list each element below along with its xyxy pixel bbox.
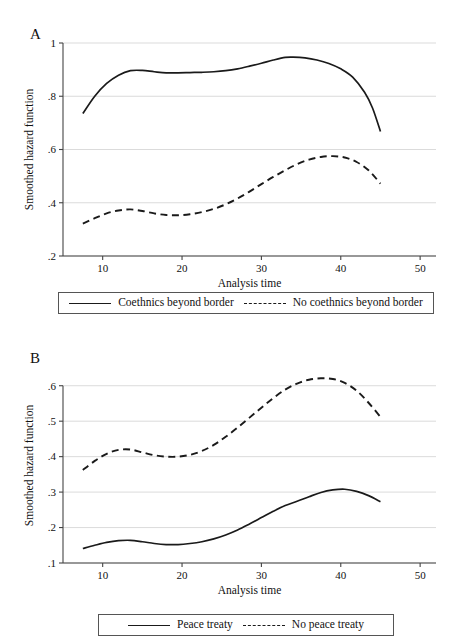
legend-entry-peace-treaty: Peace treaty <box>128 619 233 631</box>
x-tick-label: 10 <box>97 262 109 274</box>
y-tick-label: 1 <box>51 37 57 49</box>
legend-label-no-peace-treaty: No peace treaty <box>292 619 364 631</box>
x-tick-label: 30 <box>256 569 268 581</box>
y-tick-label: .4 <box>48 450 57 462</box>
y-tick-label: .1 <box>48 557 56 569</box>
x-tick-label: 10 <box>97 569 109 581</box>
legend-entry-no-coethnics: No coethnics beyond border <box>244 297 423 309</box>
y-tick-label: .6 <box>48 143 57 155</box>
y-tick-label: .2 <box>48 250 56 262</box>
panel-b-plot: .1.2.3.4.5.61020304050Analysis timeSmoot… <box>0 322 458 644</box>
x-axis-title: Analysis time <box>218 584 282 597</box>
y-tick-label: .4 <box>48 197 57 209</box>
x-tick-label: 20 <box>177 569 189 581</box>
series-line-1 <box>83 489 381 548</box>
legend-key-dashed-icon <box>244 303 286 304</box>
x-tick-label: 30 <box>256 262 268 274</box>
y-axis-title: Smoothed hazard function <box>23 89 35 211</box>
panel-a: A .2.4.6.811020304050Analysis timeSmooth… <box>0 0 458 322</box>
y-tick-label: .2 <box>48 521 56 533</box>
panel-b: B .1.2.3.4.5.61020304050Analysis timeSmo… <box>0 322 458 644</box>
panel-b-legend: Peace treaty No peace treaty <box>98 614 394 636</box>
legend-label-peace-treaty: Peace treaty <box>177 619 233 631</box>
y-tick-label: .8 <box>48 90 57 102</box>
y-tick-label: .3 <box>48 486 57 498</box>
x-tick-label: 40 <box>335 262 347 274</box>
legend-entry-coethnics: Coethnics beyond border <box>69 297 234 309</box>
legend-key-solid-icon <box>128 625 170 626</box>
x-tick-label: 40 <box>335 569 347 581</box>
x-tick-label: 50 <box>415 569 427 581</box>
x-tick-label: 50 <box>415 262 427 274</box>
series-line-1 <box>83 57 381 131</box>
legend-label-coethnics: Coethnics beyond border <box>118 297 234 309</box>
x-axis-title: Analysis time <box>218 277 282 290</box>
x-tick-label: 20 <box>177 262 189 274</box>
y-tick-label: .6 <box>48 380 57 392</box>
legend-label-no-coethnics: No coethnics beyond border <box>293 297 423 309</box>
series-line-2 <box>83 156 381 223</box>
panel-a-legend: Coethnics beyond border No coethnics bey… <box>58 292 434 314</box>
y-axis-title: Smoothed hazard function <box>23 405 35 527</box>
y-tick-label: .5 <box>48 415 57 427</box>
legend-key-solid-icon <box>69 303 111 304</box>
legend-entry-no-peace-treaty: No peace treaty <box>243 619 364 631</box>
panel-a-plot: .2.4.6.811020304050Analysis timeSmoothed… <box>0 0 458 322</box>
legend-key-dashed-icon <box>243 625 285 626</box>
